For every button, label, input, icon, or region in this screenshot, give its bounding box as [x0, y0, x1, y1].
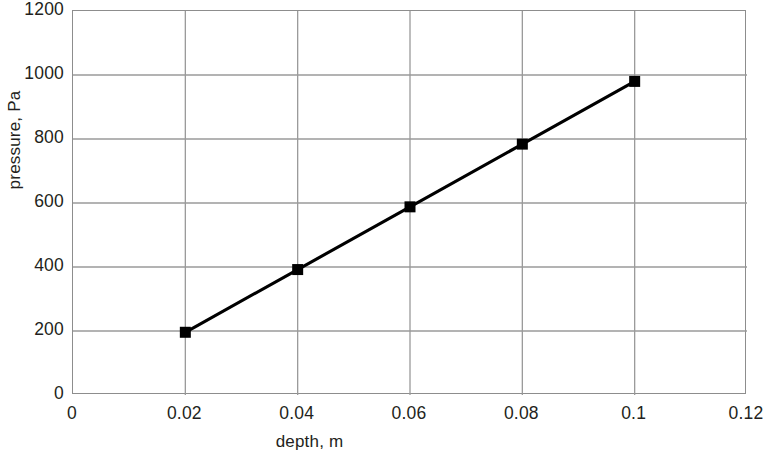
x-axis-tick-label: 0.04: [279, 405, 314, 423]
x-axis-tick-label: 0.02: [167, 405, 202, 423]
data-point-marker: [517, 139, 528, 150]
x-axis-tick-label: 0.12: [729, 405, 763, 423]
x-axis-tick-labels: 00.020.040.060.080.10.12: [0, 405, 763, 431]
plot-area: [72, 10, 746, 394]
x-axis-title-text: depth, m: [276, 432, 344, 452]
x-axis-title: depth, m: [0, 432, 763, 452]
y-axis-title: pressure, Pa: [5, 55, 25, 225]
y-axis-tick-label: 200: [6, 321, 64, 339]
x-axis-tick-label: 0.1: [621, 405, 646, 423]
x-axis-tick-label: 0: [67, 405, 77, 423]
y-axis-tick-label: 400: [6, 257, 64, 275]
data-point-marker: [629, 76, 640, 87]
x-axis-tick-label: 0.08: [504, 405, 539, 423]
data-point-marker: [180, 327, 191, 338]
x-axis-tick-label: 0.06: [392, 405, 427, 423]
chart-figure: 020040060080010001200 pressure, Pa 00.02…: [0, 0, 763, 455]
plot-svg: [73, 11, 747, 395]
data-point-marker: [405, 201, 416, 212]
y-axis-tick-label: 1200: [6, 1, 64, 19]
y-axis-tick-label: 0: [6, 385, 64, 403]
data-point-marker: [292, 264, 303, 275]
